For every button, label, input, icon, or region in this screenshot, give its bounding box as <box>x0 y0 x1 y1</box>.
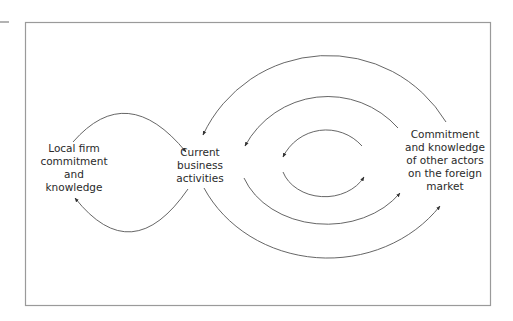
arrow-inner-foreign-to-current <box>283 130 362 157</box>
node-current-business: Current business activities <box>163 146 237 185</box>
arrow-outer-current-to-foreign <box>204 188 440 258</box>
arrow-middle-foreign-to-current <box>245 97 398 146</box>
arrow-inner-current-to-foreign <box>283 172 364 197</box>
arrow-current-to-local <box>75 189 188 232</box>
arrow-outer-foreign-to-current <box>203 56 446 135</box>
arrow-middle-current-to-foreign <box>244 178 400 224</box>
node-local-firm: Local firm commitment and knowledge <box>36 142 112 194</box>
node-foreign-actors: Commitment and knowledge of other actors… <box>393 128 497 193</box>
